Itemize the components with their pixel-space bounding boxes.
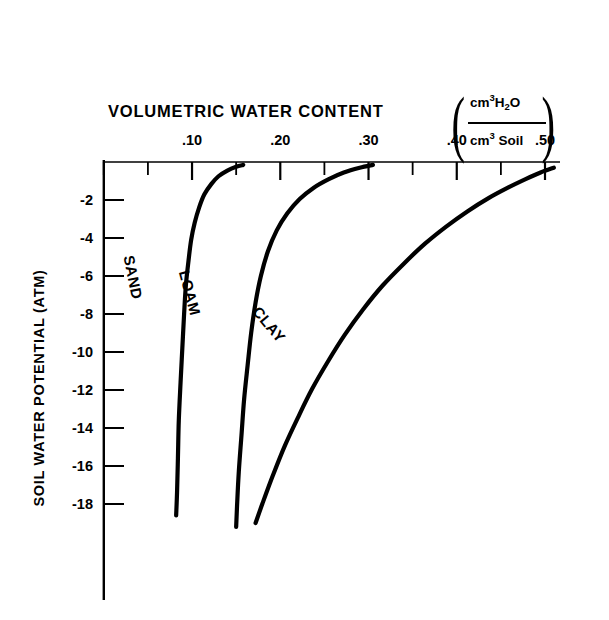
y-tick-label: -4: [45, 230, 93, 246]
y-tick-label: -18: [45, 496, 93, 512]
data-curves: [176, 165, 554, 527]
y-tick-label: -8: [45, 306, 93, 322]
y-axis-ticks: [104, 200, 124, 504]
curve-loam: [236, 165, 373, 527]
y-tick-label: -10: [45, 344, 93, 360]
soil-water-retention-chart: VOLUMETRIC WATER CONTENT ( ) cm3H2O cm3 …: [0, 0, 609, 620]
y-tick-label: -16: [45, 458, 93, 474]
y-tick-label: -14: [45, 420, 93, 436]
x-tick-label: .10: [182, 132, 202, 148]
x-tick-label: .50: [535, 132, 555, 148]
x-tick-label: .20: [270, 132, 290, 148]
curve-clay: [256, 168, 554, 523]
y-tick-label: -6: [45, 268, 93, 284]
x-axis-ticks: [104, 162, 545, 180]
y-tick-label: -2: [45, 192, 93, 208]
x-tick-label: .30: [358, 132, 378, 148]
curve-sand: [176, 165, 243, 516]
x-tick-label: .40: [447, 132, 467, 148]
y-axis-title: SOIL WATER POTENTIAL (ATM): [31, 238, 47, 538]
y-tick-label: -12: [45, 382, 93, 398]
